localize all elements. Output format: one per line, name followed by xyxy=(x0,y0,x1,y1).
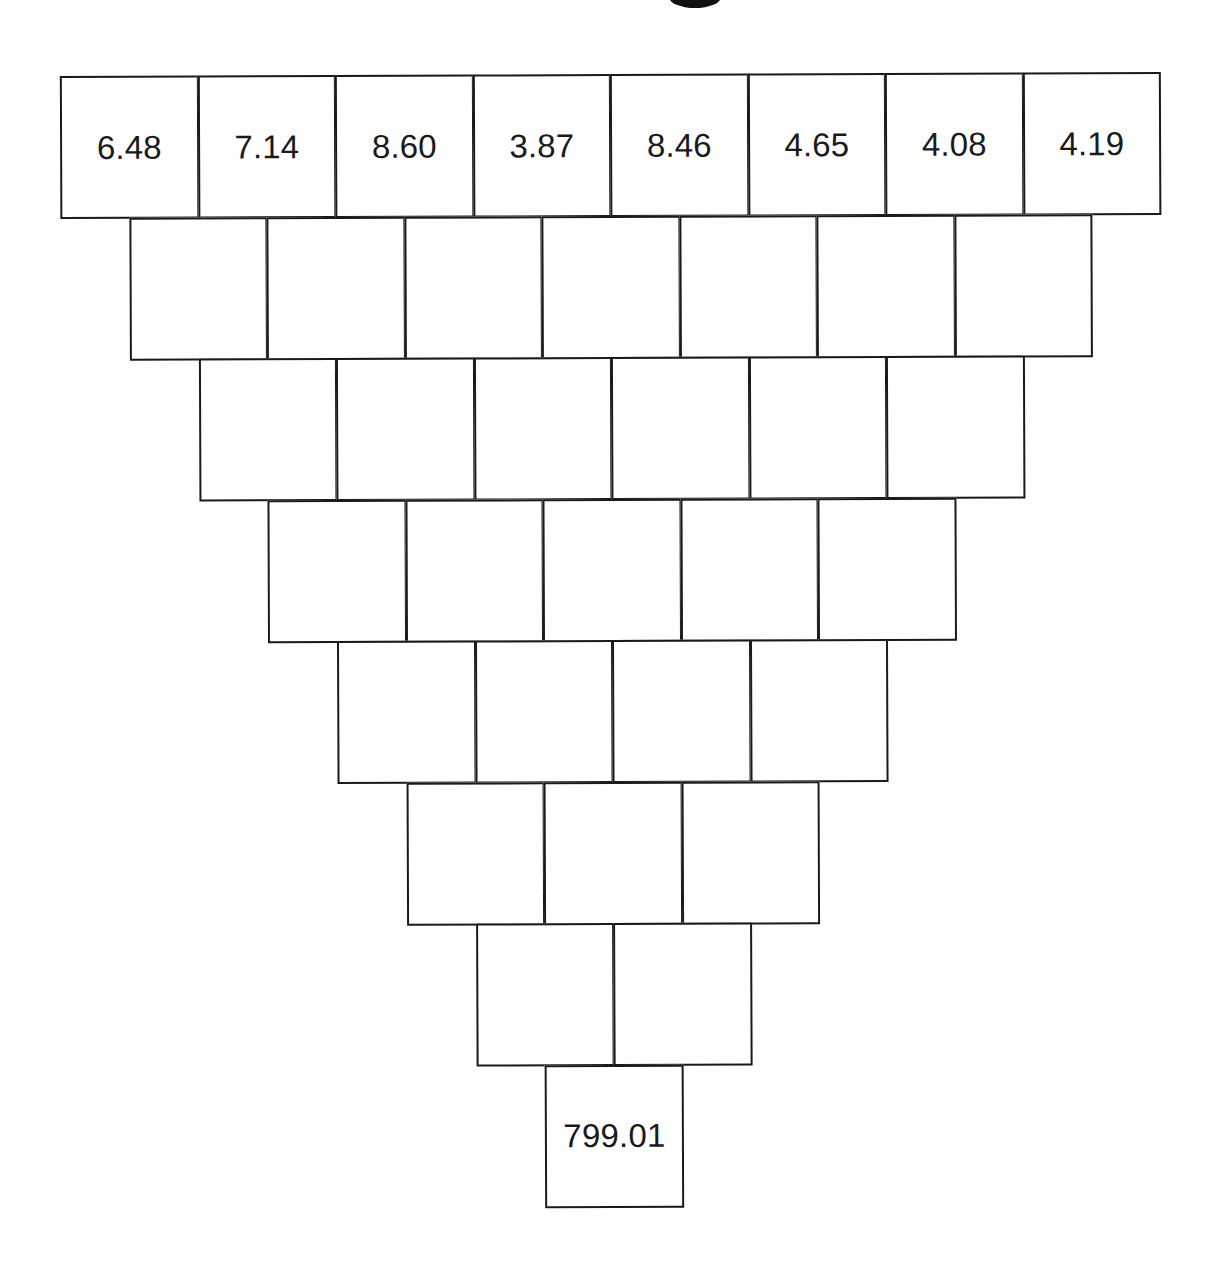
pyramid-cell-empty[interactable] xyxy=(748,356,887,500)
pyramid-cell-empty[interactable] xyxy=(886,355,1025,499)
pyramid-row-3 xyxy=(198,355,1024,499)
pyramid-cell-empty[interactable] xyxy=(612,639,751,783)
pyramid-cell-value: 3.87 xyxy=(472,74,611,218)
pyramid-cell-empty[interactable] xyxy=(611,356,750,500)
pyramid-row-6 xyxy=(406,781,819,924)
pyramid-row-4 xyxy=(268,497,956,641)
pyramid-cell-value: 4.08 xyxy=(885,72,1024,216)
pyramid-cell-empty[interactable] xyxy=(404,216,543,360)
pyramid-cell-empty[interactable] xyxy=(542,215,681,359)
pyramid-row-5 xyxy=(337,639,888,782)
pyramid-row-1: 6.487.148.603.878.464.654.084.19 xyxy=(60,72,1161,217)
pyramid-cell-empty[interactable] xyxy=(544,781,683,925)
pyramid-cell-empty[interactable] xyxy=(817,214,956,358)
pyramid-cell-value: 4.19 xyxy=(1022,72,1161,216)
pyramid-cell-empty[interactable] xyxy=(681,781,820,925)
pyramid-cell-value: 8.46 xyxy=(610,73,749,217)
pyramid-cell-value: 6.48 xyxy=(60,76,199,220)
pyramid-row-2 xyxy=(129,214,1092,359)
pyramid-cell-value: 4.65 xyxy=(747,73,886,217)
pyramid-cell-value: 799.01 xyxy=(545,1064,684,1208)
pyramid-cell-empty[interactable] xyxy=(473,357,612,501)
pyramid-cell-empty[interactable] xyxy=(405,499,544,643)
pyramid-cell-empty[interactable] xyxy=(749,639,888,783)
pyramid-cell-empty[interactable] xyxy=(337,641,476,785)
pyramid-cell-empty[interactable] xyxy=(475,640,614,784)
pyramid-cell-value: 8.60 xyxy=(335,75,474,219)
pyramid-cell-empty[interactable] xyxy=(476,923,615,1067)
pyramid-cell-value: 7.14 xyxy=(197,75,336,219)
pyramid-cell-empty[interactable] xyxy=(680,498,819,642)
pyramid-cell-empty[interactable] xyxy=(406,782,545,926)
pyramid-cell-empty[interactable] xyxy=(613,922,752,1066)
pyramid-row-8: 799.01 xyxy=(545,1064,683,1206)
pyramid-cell-empty[interactable] xyxy=(336,358,475,502)
pyramid-cell-empty[interactable] xyxy=(129,217,268,361)
pyramid-cell-empty[interactable] xyxy=(268,499,407,643)
pyramid-row-7 xyxy=(476,922,752,1064)
number-pyramid: 6.487.148.603.878.464.654.084.19799.01 xyxy=(0,0,1226,1263)
pyramid-cell-empty[interactable] xyxy=(679,215,818,359)
pyramid-cell-empty[interactable] xyxy=(267,216,406,360)
pyramid-cell-empty[interactable] xyxy=(954,214,1093,358)
pyramid-cell-empty[interactable] xyxy=(818,497,957,641)
pyramid-cell-empty[interactable] xyxy=(543,498,682,642)
pyramid-cell-empty[interactable] xyxy=(198,358,337,502)
